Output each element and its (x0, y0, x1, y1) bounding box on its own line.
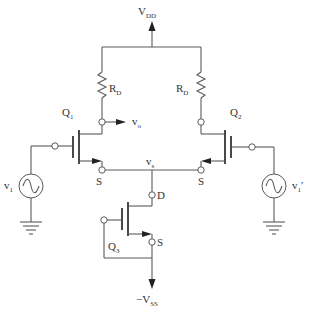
svg-text:v1: v1 (4, 179, 14, 194)
transistor-q2: Q2 S (198, 106, 249, 187)
vdd-supply: VDD (138, 5, 156, 47)
input-source-left: v1 (4, 143, 58, 234)
q1-source-arrow-icon (92, 158, 102, 164)
common-source-node: vs (105, 155, 198, 192)
q3-source-arrow-icon (142, 231, 152, 237)
svg-text:RD: RD (176, 82, 188, 97)
svg-text:Q1: Q1 (62, 106, 74, 121)
svg-text:Q2: Q2 (230, 106, 242, 121)
circuit-diagram: VDD RD RD vo Q1 S (0, 0, 310, 309)
resistor-right: RD (176, 47, 205, 122)
svg-text:D: D (157, 189, 165, 201)
vdd-label: V (138, 5, 146, 17)
svg-text:vo: vo (132, 115, 142, 130)
svg-text:vs: vs (146, 155, 155, 170)
svg-text:Q3: Q3 (108, 240, 120, 255)
output-arrow-icon (116, 119, 126, 125)
svg-text:−VSS: −VSS (136, 293, 158, 308)
transistor-q3: D S Q3 (101, 189, 165, 280)
svg-text:v1′: v1′ (292, 179, 303, 194)
svg-text:VDD: VDD (138, 5, 156, 20)
vss-arrow-icon (149, 279, 156, 289)
vss-supply: −VSS (136, 279, 158, 308)
svg-text:S: S (157, 236, 163, 248)
output-node: vo (99, 115, 142, 130)
input-source-right: v1′ (249, 144, 304, 234)
vdd-arrow-icon (149, 21, 156, 31)
transistor-q1: Q1 S (55, 106, 105, 187)
svg-text:RD: RD (109, 82, 121, 97)
svg-text:S: S (198, 175, 204, 187)
resistor-left: RD (98, 47, 121, 122)
q2-source-arrow-icon (201, 158, 211, 164)
svg-text:S: S (96, 175, 102, 187)
vss-label: −V (136, 293, 150, 305)
